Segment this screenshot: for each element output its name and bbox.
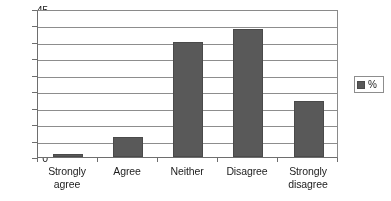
bar-agree — [113, 137, 143, 157]
bar-disagree — [233, 29, 263, 157]
bar-strongly-disagree — [294, 101, 324, 157]
plot-area — [37, 10, 338, 158]
x-category-line: disagree — [277, 178, 339, 191]
x-category-label-strongly-disagree: Strongly disagree — [277, 165, 339, 190]
legend: % — [354, 76, 384, 93]
x-category-line: Disagree — [217, 165, 277, 178]
x-tick-mark — [277, 158, 278, 162]
x-category-line: Neither — [157, 165, 217, 178]
x-category-label-agree: Agree — [97, 165, 157, 178]
legend-swatch-square-icon — [357, 81, 365, 89]
bar-strongly-agree — [53, 154, 83, 157]
x-tick-mark — [37, 158, 38, 162]
bar-chart: 45 40 35 30 25 20 15 10 5 0 — [0, 0, 391, 201]
x-category-label-neither: Neither — [157, 165, 217, 178]
bar-neither — [173, 42, 203, 157]
legend-entry-label: % — [368, 80, 377, 90]
x-tick-mark — [217, 158, 218, 162]
x-category-label-disagree: Disagree — [217, 165, 277, 178]
x-category-line: Strongly — [277, 165, 339, 178]
x-tick-mark — [157, 158, 158, 162]
x-category-line: agree — [37, 178, 97, 191]
x-category-line: Agree — [97, 165, 157, 178]
x-category-label-strongly-agree: Strongly agree — [37, 165, 97, 190]
gridline — [38, 27, 337, 28]
x-category-line: Strongly — [37, 165, 97, 178]
x-tick-mark — [337, 158, 338, 162]
x-tick-mark — [97, 158, 98, 162]
